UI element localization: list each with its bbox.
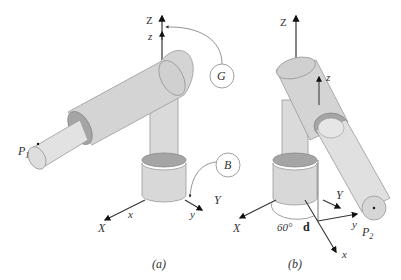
displacement-label: d [303,220,310,234]
upper-arm-inner-b [318,118,344,138]
global-z-label-a: Z [146,14,153,26]
body-y-label-a: y [189,208,195,220]
point-p2-marker [373,207,375,209]
caption-b: (b) [288,257,302,271]
global-x-axis-a [105,200,145,220]
panel-a: Z z P1 X x Y y G B (a) [17,14,240,271]
body-x-label-a: x [127,208,133,220]
body-z-label-a: z [147,30,153,42]
body-z-label-b: z [325,71,331,83]
global-x-label-a: X [97,221,106,235]
body-y-label-b: y [351,218,357,230]
global-x-axis-b [240,200,276,218]
base-cylinder-a [142,163,186,202]
global-y-label-a: Y [214,193,222,207]
rigid-body-rotation-diagram: Z z P1 X x Y y G B (a) Z [0,0,401,280]
caption-a: (a) [152,257,166,271]
point-p1-marker [37,143,39,145]
frame-b-label: B [224,158,232,172]
base-ring-a [142,153,186,167]
panel-b: Z z P2 X x y Y 60° d (b) [232,16,390,271]
point-p2-label: P2 [361,225,373,241]
global-y-label-b: Y [336,188,344,202]
frame-b-pointer [190,162,216,197]
point-p1-label: P1 [17,144,29,160]
base-ring-b [273,153,317,167]
angle-label: 60° [277,221,293,233]
global-z-label-b: Z [280,16,287,28]
body-x-label-b: x [341,248,347,260]
global-x-label-b: X [232,221,241,235]
frame-g-label: G [217,69,226,83]
base-cylinder-b [273,163,317,205]
